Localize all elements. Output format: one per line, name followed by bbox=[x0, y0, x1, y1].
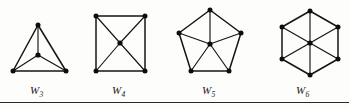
spoke-edge bbox=[179, 33, 210, 44]
spoke-edge bbox=[210, 33, 241, 44]
rim-edge bbox=[282, 11, 310, 27]
rim-vertex bbox=[308, 9, 313, 14]
spoke-edge bbox=[120, 43, 145, 71]
rim-vertex bbox=[189, 69, 194, 74]
rim-edge bbox=[310, 11, 338, 27]
figure-label-w3: W3 bbox=[30, 84, 43, 96]
spoke-edge bbox=[96, 43, 120, 71]
figure-label-w5-letter: W bbox=[202, 84, 211, 96]
wheel-graph-w5 bbox=[177, 8, 244, 74]
wheel-graphs-figure: W3 W4 W5 W6 bbox=[0, 0, 349, 108]
figure-label-w6-subscript: 6 bbox=[306, 90, 310, 99]
rim-vertex bbox=[94, 14, 99, 19]
rim-vertex bbox=[239, 31, 244, 36]
spoke-edge bbox=[120, 16, 145, 43]
rim-vertex bbox=[64, 69, 69, 74]
spoke-edge bbox=[191, 44, 210, 71]
rim-edge bbox=[282, 59, 310, 75]
rim-edge bbox=[38, 25, 66, 71]
rim-vertex bbox=[208, 8, 213, 13]
rim-vertex bbox=[11, 69, 16, 74]
rim-edge bbox=[179, 33, 191, 71]
figure-label-w5-subscript: 5 bbox=[212, 90, 216, 99]
spoke-edge bbox=[310, 27, 338, 43]
figure-label-w3-letter: W bbox=[30, 84, 39, 96]
rim-edge bbox=[13, 25, 38, 71]
rim-edge bbox=[179, 10, 210, 33]
figure-label-w4: W4 bbox=[112, 84, 125, 96]
rim-edge bbox=[310, 59, 338, 75]
rim-vertex bbox=[280, 25, 285, 30]
hub-vertex bbox=[117, 40, 122, 45]
rim-vertex bbox=[336, 25, 341, 30]
rim-vertex bbox=[336, 57, 341, 62]
rim-vertex bbox=[177, 31, 182, 36]
spoke-edge bbox=[96, 16, 120, 43]
spoke-edge bbox=[210, 44, 229, 71]
rim-vertex bbox=[143, 14, 148, 19]
rim-vertex bbox=[143, 69, 148, 74]
hub-vertex bbox=[207, 41, 212, 46]
spoke-edge bbox=[282, 27, 310, 43]
figure-bottom-rule bbox=[0, 102, 349, 103]
rim-edge bbox=[229, 33, 241, 71]
figure-label-w4-subscript: 4 bbox=[122, 90, 126, 99]
figure-label-w6: W6 bbox=[296, 84, 309, 96]
wheel-graph-w4 bbox=[94, 14, 148, 74]
figure-label-w5: W5 bbox=[202, 84, 215, 96]
wheel-graph-w6 bbox=[280, 9, 341, 78]
figure-label-w6-letter: W bbox=[296, 84, 305, 96]
figure-label-w4-letter: W bbox=[112, 84, 121, 96]
rim-edge bbox=[210, 10, 241, 33]
hub-vertex bbox=[35, 52, 40, 57]
wheel-graph-w3 bbox=[11, 23, 69, 74]
spoke-edge bbox=[282, 43, 310, 59]
rim-vertex bbox=[94, 69, 99, 74]
hub-vertex bbox=[307, 40, 312, 45]
figure-label-w3-subscript: 3 bbox=[40, 90, 44, 99]
rim-vertex bbox=[280, 57, 285, 62]
rim-vertex bbox=[36, 23, 41, 28]
rim-vertex bbox=[308, 73, 313, 78]
rim-vertex bbox=[227, 69, 232, 74]
spoke-edge bbox=[310, 43, 338, 59]
